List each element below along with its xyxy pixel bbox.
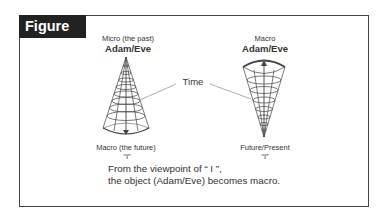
time-pointer-lines xyxy=(140,84,251,100)
left-cone xyxy=(103,57,149,135)
cones-diagram xyxy=(0,0,388,222)
